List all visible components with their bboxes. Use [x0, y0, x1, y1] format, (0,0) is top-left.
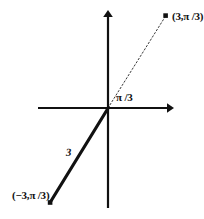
point-marker-positive [163, 13, 168, 18]
horizontal-axis-arrow-icon [167, 103, 174, 113]
solid-radius-segment [51, 108, 109, 202]
figure-canvas [0, 0, 204, 219]
point-label-negative: (−3,π /3) [12, 190, 49, 201]
radius-length-label: 3 [66, 147, 72, 158]
point-label-positive: (3,π /3) [172, 11, 203, 22]
vertical-axis-arrow-icon [103, 10, 113, 17]
angle-label: π /3 [116, 92, 133, 103]
polar-point-figure: (3,π /3) (−3,π /3) π /3 3 [0, 0, 204, 219]
